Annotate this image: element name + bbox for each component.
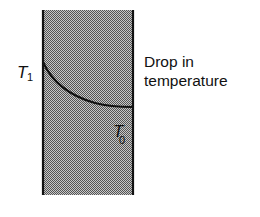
drop-in-temperature-caption: Drop in temperature bbox=[144, 52, 228, 90]
t0-sub: 0 bbox=[119, 134, 125, 146]
t1-label: T 1 bbox=[17, 63, 33, 83]
caption-line-1: Drop in bbox=[144, 52, 228, 71]
wall-slab bbox=[43, 10, 133, 195]
caption-line-2: temperature bbox=[144, 71, 228, 90]
t1-sub: 1 bbox=[27, 71, 33, 83]
diagram-canvas: T 1 T 0 bbox=[0, 0, 260, 217]
